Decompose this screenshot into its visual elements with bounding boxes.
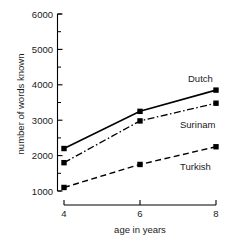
- series-dutch-marker-age8: [213, 87, 218, 92]
- y-tick-label-2000: 2000: [32, 150, 53, 161]
- y-tick-label-5000: 5000: [32, 44, 53, 55]
- y-axis-title: number of words known: [15, 54, 26, 155]
- x-axis: 4 6 8 age in years: [61, 200, 218, 235]
- y-tick-label-4000: 4000: [32, 79, 53, 90]
- x-tick-label-8: 8: [213, 208, 218, 219]
- x-tick-label-4: 4: [61, 208, 66, 219]
- chart-canvas: 6000 5000 4000 3000 2000 1000 number of …: [0, 0, 234, 241]
- series-turkish-marker-age8: [213, 144, 218, 149]
- y-tick-label-1000: 1000: [32, 186, 53, 197]
- series-turkish-label: Turkish: [180, 161, 211, 172]
- series-dutch-label: Dutch: [188, 73, 213, 84]
- series-surinam-marker-age6: [137, 118, 142, 123]
- y-tick-label-6000: 6000: [32, 9, 53, 20]
- series-surinam-marker-age4: [61, 160, 66, 165]
- series-surinam-marker-age8: [213, 101, 218, 106]
- series-dutch: Dutch: [61, 73, 218, 151]
- y-axis: 6000 5000 4000 3000 2000 1000 number of …: [15, 9, 63, 197]
- x-tick-label-6: 6: [137, 208, 142, 219]
- words-known-line-chart: 6000 5000 4000 3000 2000 1000 number of …: [0, 0, 234, 241]
- series-dutch-marker-age4: [61, 146, 66, 151]
- series-dutch-marker-age6: [137, 109, 142, 114]
- y-tick-label-3000: 3000: [32, 115, 53, 126]
- series-turkish-marker-age6: [137, 162, 142, 167]
- series-turkish-marker-age4: [61, 185, 66, 190]
- series-surinam-label: Surinam: [180, 119, 215, 130]
- x-axis-title: age in years: [114, 224, 166, 235]
